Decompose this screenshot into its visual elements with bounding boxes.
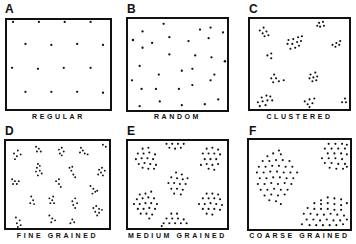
panel-caption-regular: REGULAR (5, 113, 112, 120)
dot-pattern-clustered (250, 19, 349, 109)
panel-letter-b: B (127, 2, 136, 16)
panel-letter-e: E (127, 124, 135, 138)
panel-letter-a: A (5, 2, 14, 16)
panel-caption-coarse-grained: COARSE GRAINED (247, 232, 352, 239)
panel-caption-clustered: CLUSTERED (248, 113, 351, 120)
panel-caption-fine-grained: FINE GRAINED (4, 232, 111, 239)
pattern-box-clustered (248, 17, 351, 111)
dot-pattern-coarse-grained (249, 140, 350, 229)
panel-letter-f: F (249, 124, 256, 138)
dot-pattern-fine-grained (6, 141, 109, 228)
panel-letter-c: C (249, 2, 258, 16)
pattern-box-medium-grained (126, 139, 229, 230)
dot-pattern-regular (7, 20, 110, 109)
panel-letter-d: D (5, 124, 14, 138)
dot-pattern-medium-grained (128, 141, 227, 228)
pattern-box-random (126, 17, 229, 112)
pattern-box-regular (5, 18, 112, 111)
pattern-box-fine-grained (4, 139, 111, 230)
panel-caption-random: RANDOM (126, 113, 229, 120)
dot-pattern-random (128, 19, 227, 110)
panel-caption-medium-grained: MEDIUM GRAINED (126, 232, 229, 239)
pattern-box-coarse-grained (247, 138, 352, 231)
